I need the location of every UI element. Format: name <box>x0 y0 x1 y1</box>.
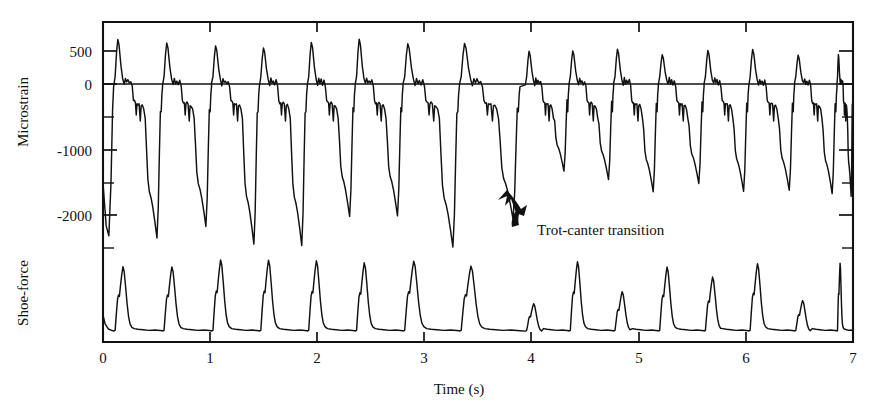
y-axis-title-microstrain: Microstrain <box>15 77 31 147</box>
y-tick-label-minus-2000: -2000 <box>57 208 92 224</box>
x-tick-label-5: 5 <box>635 350 643 366</box>
y-tick-label-minus-1000: -1000 <box>57 143 92 159</box>
x-tick-label-6: 6 <box>742 350 750 366</box>
x-tick-label-0: 0 <box>99 350 107 366</box>
y-tick-label-0: 0 <box>85 77 93 93</box>
x-axis-title: Time (s) <box>434 381 485 398</box>
y-axis-title-microstrain-text: Microstrain <box>15 77 31 147</box>
y-tick-label-500: 500 <box>70 44 93 60</box>
trot-canter-transition-label: Trot-canter transition <box>537 222 665 238</box>
x-tick-label-7: 7 <box>849 350 857 366</box>
shoe-force-trace <box>103 260 853 331</box>
x-tick-label-1: 1 <box>206 350 214 366</box>
trot-canter-transition-arrow-icon <box>498 190 527 227</box>
microstrain-trace <box>103 39 853 247</box>
x-tick-label-2: 2 <box>313 350 321 366</box>
y-axis-title-shoe-force-text: Shoe-force <box>15 260 31 326</box>
x-axis-tick-labels: 0 1 2 3 4 5 6 7 <box>99 350 857 366</box>
x-tick-label-4: 4 <box>527 350 535 366</box>
strain-shoe-force-chart: 500 0 -1000 -2000 Microstrain Shoe-force… <box>0 0 877 415</box>
y-axis-title-shoe-force: Shoe-force <box>15 260 31 326</box>
x-tick-label-3: 3 <box>420 350 428 366</box>
y-axis-tick-labels: 500 0 -1000 -2000 <box>57 44 92 224</box>
